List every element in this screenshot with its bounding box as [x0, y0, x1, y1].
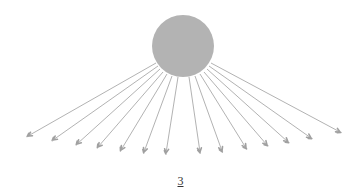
ray-line	[98, 72, 163, 147]
ray-line	[204, 72, 267, 145]
arrow-tail-icon	[120, 146, 124, 151]
hub-circle	[152, 15, 214, 77]
ray-line	[200, 74, 246, 148]
page-number-text: 3	[178, 174, 184, 188]
ray-line	[211, 63, 340, 132]
ray-line	[209, 66, 311, 138]
arrow-tail-icon	[307, 134, 312, 139]
ray-line	[189, 77, 200, 152]
arrow-tail-icon	[336, 128, 341, 132]
arrow-tail-icon	[242, 144, 246, 149]
ray-line	[28, 63, 156, 136]
ray-line	[53, 66, 158, 140]
radial-diagram	[0, 0, 361, 192]
page-number: 3	[0, 174, 361, 189]
arrow-tail-icon	[52, 136, 57, 141]
